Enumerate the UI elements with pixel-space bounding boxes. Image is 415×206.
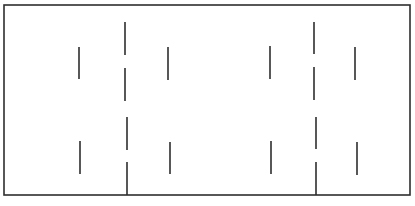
outer-frame <box>4 5 410 195</box>
short-tick-marks <box>79 46 357 175</box>
line-diagram <box>0 0 415 206</box>
diagram-canvas <box>0 0 415 206</box>
dashed-center-lines <box>125 22 316 195</box>
